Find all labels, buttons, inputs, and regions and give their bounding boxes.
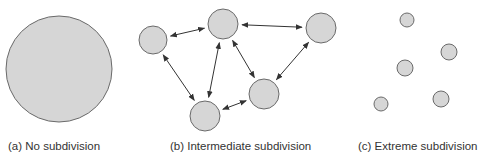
bidirectional-arrow [223, 101, 246, 110]
population-circle [374, 97, 388, 111]
population-circle [400, 13, 414, 27]
caption-c: (c) Extreme subdivision [358, 140, 478, 152]
bidirectional-arrow [171, 28, 205, 36]
panel-a-no-subdivision [6, 16, 112, 122]
population-circle [433, 91, 449, 107]
population-circle [397, 60, 413, 76]
population-circle [190, 101, 220, 131]
panel-c-extreme-subdivision [374, 13, 457, 111]
population-circle [306, 13, 336, 43]
caption-a: (a) No subdivision [8, 140, 100, 152]
bidirectional-arrow [209, 43, 220, 98]
bidirectional-arrow [163, 55, 194, 100]
subdivision-diagram [0, 0, 481, 163]
panel-b-intermediate-subdivision [139, 9, 336, 131]
population-circle [249, 79, 279, 109]
population-circle [139, 26, 167, 54]
bidirectional-arrow [242, 25, 302, 27]
bidirectional-arrow [233, 40, 255, 77]
population-circle [6, 16, 112, 122]
caption-b: (b) Intermediate subdivision [170, 140, 311, 152]
population-circle [441, 44, 457, 60]
bidirectional-arrow [276, 42, 308, 79]
population-circle [208, 9, 238, 39]
